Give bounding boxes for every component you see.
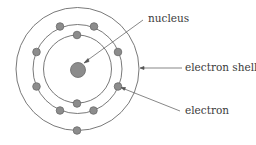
electron xyxy=(33,83,41,91)
electron xyxy=(114,83,122,91)
electron xyxy=(73,31,81,39)
electron xyxy=(73,127,81,135)
arrow-head-icon xyxy=(140,67,144,70)
nucleus xyxy=(71,63,86,78)
arrow-head-icon xyxy=(121,88,126,91)
electron-label: electron xyxy=(185,105,229,116)
electron xyxy=(90,23,98,31)
electron xyxy=(33,48,41,56)
electron xyxy=(114,48,122,56)
electron xyxy=(56,107,64,115)
electron-shell-label: electron shell xyxy=(185,62,256,73)
electron xyxy=(56,23,64,31)
electron xyxy=(90,107,98,115)
electron xyxy=(73,100,81,108)
arrow-head-icon xyxy=(84,59,89,64)
nucleus-label: nucleus xyxy=(148,13,189,24)
